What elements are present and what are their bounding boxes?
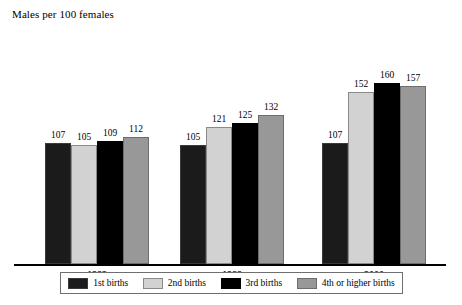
legend-item: 3rd births <box>221 278 283 289</box>
bar-slot: 132 <box>258 22 284 264</box>
legend-item: 1st births <box>68 278 128 289</box>
bar-value-label: 157 <box>406 73 420 84</box>
bar-group: 105121125132 <box>180 22 284 264</box>
bar-slot: 105 <box>180 22 206 264</box>
bar <box>123 137 149 264</box>
legend-label: 4th or higher births <box>322 278 395 288</box>
bar-slot: 160 <box>374 22 400 264</box>
legend-label: 1st births <box>93 278 128 288</box>
bar <box>180 145 206 264</box>
bar-slot: 109 <box>97 22 123 264</box>
bar <box>348 92 374 264</box>
bar <box>374 83 400 264</box>
bar-value-label: 160 <box>380 70 394 81</box>
bar-value-label: 105 <box>77 132 91 143</box>
legend-swatch-icon <box>297 278 317 289</box>
bar-value-label: 107 <box>328 130 342 141</box>
bar-slot: 157 <box>400 22 426 264</box>
bar-slot: 125 <box>232 22 258 264</box>
bar <box>232 123 258 264</box>
legend-swatch-icon <box>143 278 163 289</box>
bar-group: 107152160157 <box>322 22 426 264</box>
bar-value-label: 121 <box>212 114 226 125</box>
bar <box>206 127 232 264</box>
legend-label: 3rd births <box>246 278 283 288</box>
legend-label: 2nd births <box>168 278 206 288</box>
chart-legend: 1st births 2nd births 3rd births 4th or … <box>60 272 403 294</box>
bar-value-label: 109 <box>103 128 117 139</box>
bar-group: 107105109112 <box>45 22 149 264</box>
x-axis-line <box>14 264 446 266</box>
bar-slot: 107 <box>322 22 348 264</box>
bar-value-label: 107 <box>51 130 65 141</box>
chart-title: Males per 100 females <box>12 8 114 20</box>
bar <box>45 143 71 264</box>
bar-value-label: 105 <box>186 132 200 143</box>
bar-slot: 152 <box>348 22 374 264</box>
legend-swatch-icon <box>68 278 88 289</box>
bar <box>258 115 284 264</box>
bar <box>71 145 97 264</box>
bar-chart: Males per 100 females 107105109112105121… <box>0 0 462 305</box>
bar <box>97 141 123 264</box>
bar-value-label: 132 <box>264 102 278 113</box>
legend-swatch-icon <box>221 278 241 289</box>
legend-item: 2nd births <box>143 278 206 289</box>
bar-slot: 112 <box>123 22 149 264</box>
plot-area: 107105109112105121125132107152160157 198… <box>0 22 462 242</box>
bar-slot: 121 <box>206 22 232 264</box>
legend-item: 4th or higher births <box>297 278 395 289</box>
bar-value-label: 152 <box>354 79 368 90</box>
bar-value-label: 125 <box>238 110 252 121</box>
bar-slot: 105 <box>71 22 97 264</box>
bar <box>400 86 426 264</box>
bar-value-label: 112 <box>129 124 143 135</box>
bar <box>322 143 348 264</box>
bar-slot: 107 <box>45 22 71 264</box>
